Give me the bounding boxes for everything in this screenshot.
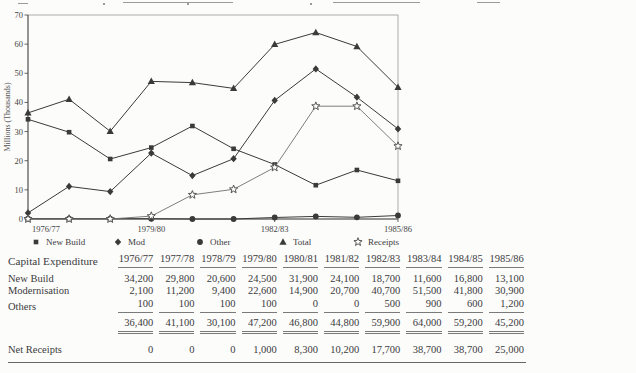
table-cell: 900: [406, 298, 441, 314]
chart-legend: New Build Mod Other Total Receipts: [0, 237, 636, 251]
legend-item-other: Other: [194, 237, 231, 247]
table-cell: 1980/81: [283, 253, 318, 268]
table-cell: 41,800: [442, 285, 483, 298]
legend-label: Other: [210, 237, 231, 247]
svg-text:0: 0: [19, 214, 23, 224]
table-cell: 500: [365, 298, 400, 314]
table-cell: 45,200: [489, 317, 524, 332]
svg-text:30: 30: [15, 127, 24, 137]
table-cell: 0: [324, 298, 359, 314]
triangle-marker-icon: [277, 237, 289, 247]
table-cell: 31,900: [277, 273, 318, 286]
table-cell: 59,200: [448, 317, 483, 332]
table-cell: 16,800: [442, 273, 483, 286]
row-label: New Build: [8, 273, 112, 286]
table-cell: 1985/86: [489, 253, 524, 268]
table-cell: 30,900: [483, 285, 524, 298]
svg-text:1976/77: 1976/77: [32, 224, 60, 234]
table-header-row: Capital Expenditure1976/771977/781978/79…: [8, 253, 526, 268]
table-cell: 10,200: [318, 344, 359, 357]
table-cell: 0: [153, 344, 194, 357]
table-cell: 22,600: [236, 285, 277, 298]
row-label: Others: [8, 301, 112, 314]
table-cell: 24,500: [236, 273, 277, 286]
table-cell: 64,000: [406, 317, 441, 332]
legend-item-new-build: New Build: [30, 237, 85, 247]
table-cell: 46,800: [283, 317, 318, 332]
svg-text:1982/83: 1982/83: [261, 224, 289, 234]
svg-text:50: 50: [15, 68, 24, 78]
svg-text:10: 10: [15, 185, 24, 195]
table-cell: 1981/82: [324, 253, 359, 268]
table-cell: 20,700: [318, 285, 359, 298]
legend-label: Receipts: [368, 237, 399, 247]
table-cell: 1984/85: [448, 253, 483, 268]
table-cell: 38,700: [442, 344, 483, 357]
table-cell: 1983/84: [406, 253, 441, 268]
table-row-others: Others100100100100005009006001,200: [8, 298, 526, 314]
legend-label: New Build: [46, 237, 85, 247]
svg-text:60: 60: [15, 39, 24, 49]
table-cell: 1979/80: [242, 253, 277, 268]
row-label: Net Receipts: [8, 344, 112, 357]
svg-text:70: 70: [15, 10, 24, 20]
table-cell: 40,700: [359, 285, 400, 298]
table-cell: 18,700: [359, 273, 400, 286]
table-cell: 11,600: [400, 273, 441, 286]
table-cell: 0: [194, 344, 235, 357]
table-cell: 29,800: [153, 273, 194, 286]
table-cell: 38,700: [400, 344, 441, 357]
capital-expenditure-line-chart: 010203040506070Millions (Thousands)1976/…: [0, 0, 636, 234]
table-cell: 1978/79: [200, 253, 235, 268]
table-cell: 1982/83: [365, 253, 400, 268]
table-cell: 17,700: [359, 344, 400, 357]
svg-text:1985/86: 1985/86: [384, 224, 412, 234]
table-cell: 24,100: [318, 273, 359, 286]
row-label: Modernisation: [8, 285, 112, 298]
legend-label: Total: [293, 237, 311, 247]
table-cell: 59,900: [365, 317, 400, 332]
circle-marker-icon: [194, 237, 206, 247]
svg-text:Millions (Thousands): Millions (Thousands): [3, 82, 12, 151]
square-marker-icon: [30, 237, 42, 247]
svg-text:40: 40: [15, 97, 24, 107]
table-cell: 1,000: [236, 344, 277, 357]
legend-label: Mod: [128, 237, 145, 247]
table-row-total: 36,40041,10030,10047,20046,80044,80059,9…: [8, 317, 526, 332]
table-cell: 34,200: [112, 273, 153, 286]
table-cell: 600: [448, 298, 483, 314]
table-cell: 8,300: [277, 344, 318, 357]
table-cell: 30,100: [200, 317, 235, 332]
svg-text:1979/80: 1979/80: [137, 224, 165, 234]
table-cell: 0: [112, 344, 153, 357]
svg-text:20: 20: [15, 156, 24, 166]
table-cell: 51,500: [400, 285, 441, 298]
table-cell: 0: [283, 298, 318, 314]
table-cell: 100: [118, 298, 153, 314]
table-cell: 100: [200, 298, 235, 314]
table-cell: 2,100: [112, 285, 153, 298]
star-marker-icon: [352, 237, 364, 247]
table-cell: 100: [159, 298, 194, 314]
table-cell: 1977/78: [159, 253, 194, 268]
legend-item-mod: Mod: [112, 237, 145, 247]
row-label: Capital Expenditure: [8, 255, 112, 268]
table-cell: 47,200: [242, 317, 277, 332]
bottom-rule: [8, 362, 526, 363]
capital-expenditure-table: Capital Expenditure1976/771977/781978/79…: [8, 253, 526, 363]
table-cell: 100: [242, 298, 277, 314]
legend-item-receipts: Receipts: [352, 237, 399, 247]
table-cell: 44,800: [324, 317, 359, 332]
table-cell: 20,600: [194, 273, 235, 286]
table-cell: 13,100: [483, 273, 524, 286]
table-cell: 9,400: [194, 285, 235, 298]
table-cell: 41,100: [159, 317, 194, 332]
table-row-new-build: New Build34,20029,80020,60024,50031,9002…: [8, 273, 526, 286]
scanned-report-page: 010203040506070Millions (Thousands)1976/…: [0, 0, 636, 373]
table-cell: 14,900: [277, 285, 318, 298]
table-row-modernisation: Modernisation2,10011,2009,40022,60014,90…: [8, 285, 526, 298]
legend-item-total: Total: [277, 237, 311, 247]
table-cell: 1976/77: [118, 253, 153, 268]
table-cell: 1,200: [489, 298, 524, 314]
table-cell: 25,000: [483, 344, 524, 357]
